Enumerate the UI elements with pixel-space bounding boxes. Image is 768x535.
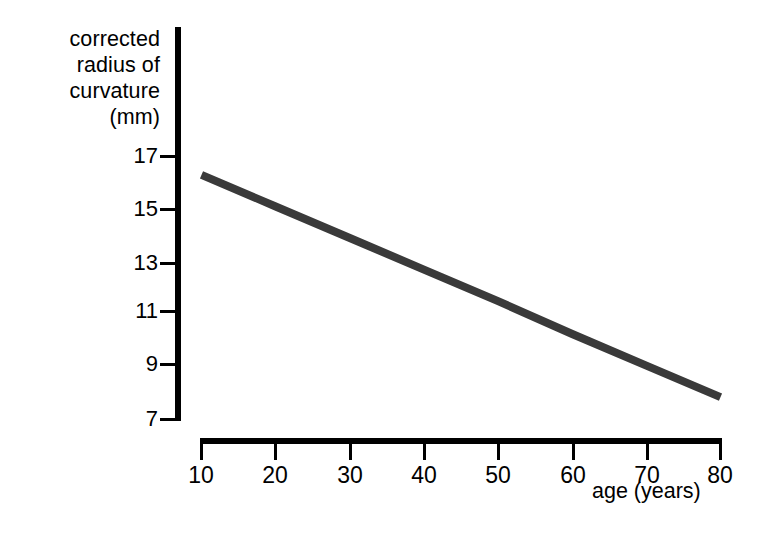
y-axis-label-line-1: corrected — [20, 26, 160, 52]
x-tick-label: 80 — [695, 464, 745, 487]
y-axis-label-line-4: (mm) — [20, 104, 160, 130]
x-tick-label: 30 — [325, 464, 375, 487]
y-tick-label: 11 — [118, 300, 158, 322]
y-axis-label-line-3: curvature — [20, 78, 160, 104]
x-axis-line — [200, 438, 722, 444]
y-tick-mark — [160, 310, 175, 313]
y-tick-mark — [160, 208, 175, 211]
x-tick-mark — [423, 444, 426, 460]
y-axis-line — [175, 27, 181, 421]
x-axis-label: age (years) — [592, 478, 701, 504]
x-tick-mark — [274, 444, 277, 460]
y-tick-label: 17 — [118, 145, 158, 167]
y-tick-mark — [160, 363, 175, 366]
y-axis-label: corrected radius of curvature (mm) — [20, 26, 160, 130]
x-tick-mark — [572, 444, 575, 460]
x-tick-label: 10 — [176, 464, 226, 487]
y-tick-label: 9 — [118, 353, 158, 375]
y-tick-mark — [160, 155, 175, 158]
x-tick-mark — [646, 444, 649, 460]
y-axis-label-line-2: radius of — [20, 52, 160, 78]
x-tick-label: 20 — [250, 464, 300, 487]
y-tick-label: 15 — [118, 198, 158, 220]
x-tick-label: 60 — [548, 464, 598, 487]
x-tick-mark — [349, 444, 352, 460]
y-tick-label: 13 — [118, 252, 158, 274]
x-tick-label: 50 — [473, 464, 523, 487]
y-tick-label: 7 — [118, 408, 158, 430]
y-tick-mark — [160, 418, 175, 421]
x-tick-label: 40 — [399, 464, 449, 487]
y-tick-mark — [160, 262, 175, 265]
x-tick-mark — [719, 444, 722, 460]
chart-figure: corrected radius of curvature (mm) 17 15… — [0, 0, 768, 535]
data-line-series-0 — [202, 175, 721, 397]
x-tick-mark — [497, 444, 500, 460]
x-tick-mark — [200, 444, 203, 460]
